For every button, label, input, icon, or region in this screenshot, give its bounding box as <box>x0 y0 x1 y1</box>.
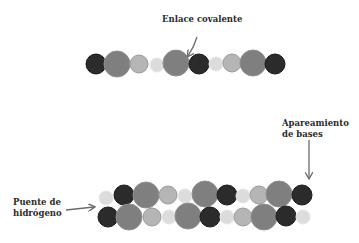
nucleotide-light <box>159 186 177 204</box>
base-pairing-label-line2: de bases <box>282 129 349 140</box>
nucleotide-medium <box>192 181 218 207</box>
covalent-bond-arrow-icon <box>188 37 197 56</box>
hydrogen-bond-label: Puente de hidrógeno <box>13 197 62 219</box>
nucleotide-dark <box>292 185 312 205</box>
nucleotide-dark <box>114 185 134 205</box>
nucleotide-dark <box>200 207 220 227</box>
nucleotide-dark <box>276 206 296 226</box>
nucleotide-dark <box>217 185 237 205</box>
nucleotide-medium <box>133 182 159 208</box>
nucleotide-pale <box>150 58 164 72</box>
covalent-bond-label: Enlace covalente <box>162 14 242 25</box>
nucleotide-light <box>143 208 161 226</box>
nucleotide-pale <box>220 210 234 224</box>
nucleotide-medium <box>266 181 292 207</box>
nucleotide-light <box>234 208 252 226</box>
nucleotide-medium <box>175 203 201 229</box>
nucleotide-light <box>223 54 241 72</box>
nucleotide-light <box>130 55 148 73</box>
nucleotide-dark <box>265 54 285 74</box>
nucleotide-dark <box>98 207 118 227</box>
nucleotide-pale <box>99 191 113 205</box>
nucleotide-medium <box>240 50 266 76</box>
single-strand <box>86 50 285 77</box>
hydrogen-bond-label-line2: hidrógeno <box>13 208 62 219</box>
nucleotide-medium <box>163 50 189 76</box>
nucleotide-medium <box>116 204 142 230</box>
nucleotide-pale <box>162 210 176 224</box>
dna-diagram: Enlace covalente Apareamiento de bases P… <box>0 0 359 243</box>
hydrogen-bond-label-line1: Puente de <box>13 197 62 208</box>
base-pairing-label-line1: Apareamiento <box>282 118 349 129</box>
nucleotide-medium <box>251 204 277 230</box>
hydrogen-bond-arrow-icon <box>66 207 94 210</box>
nucleotide-pale <box>209 57 223 71</box>
nucleotide-light <box>250 186 268 204</box>
nucleotide-pale <box>236 189 250 203</box>
nucleotide-dark <box>189 54 209 74</box>
nucleotide-pale <box>178 189 192 203</box>
nucleotide-medium <box>104 51 130 77</box>
nucleotide-dark <box>86 54 106 74</box>
nucleotide-pale <box>296 210 310 224</box>
base-pairing-label: Apareamiento de bases <box>282 118 349 140</box>
